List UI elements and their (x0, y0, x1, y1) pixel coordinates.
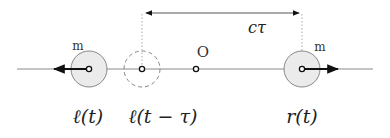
origin-point (193, 66, 198, 71)
origin-label: O (197, 43, 209, 61)
retarded-position-label: ℓ(t − τ) (129, 105, 198, 127)
left-mass-center (86, 66, 91, 71)
right-mass-center (299, 66, 304, 71)
diagram-canvas: cτ O m m ℓ(t) ℓ(t − τ) r(t) (0, 0, 390, 138)
diagram-svg: cτ O m m ℓ(t) ℓ(t − τ) r(t) (0, 0, 390, 138)
left-mass-label: m (72, 39, 84, 53)
right-mass-label: m (314, 40, 326, 54)
right-position-label: r(t) (286, 105, 318, 127)
distance-label: cτ (248, 18, 267, 37)
left-position-label: ℓ(t) (73, 105, 103, 127)
retarded-mass-center (139, 66, 144, 71)
